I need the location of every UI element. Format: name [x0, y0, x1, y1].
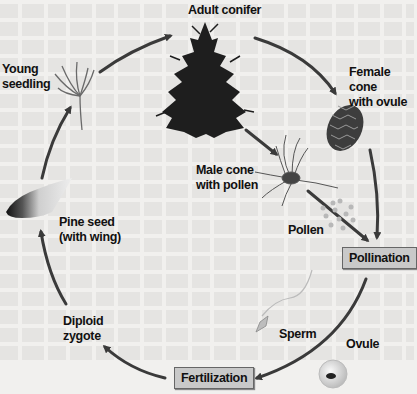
label-male-cone: Male cone with pollen: [196, 163, 258, 193]
arrow-fertilization-to-zygote: [105, 347, 165, 378]
label-diploid-zygote: Diploid zygote: [63, 314, 103, 344]
label-ovule: Ovule: [346, 337, 379, 352]
pollination-box: Pollination: [342, 247, 417, 269]
ovule-icon: [319, 360, 347, 388]
arrow-female-to-pollination: [370, 150, 378, 237]
fertilization-box: Fertilization: [174, 367, 254, 389]
young-seedling-icon: [55, 62, 94, 130]
arrow-adult-to-female: [255, 38, 335, 93]
label-young-seedling: Young seedling: [2, 62, 50, 92]
label-adult-conifer: Adult conifer: [188, 3, 261, 18]
arrow-seedling-to-adult: [100, 36, 170, 72]
adult-conifer-icon: [156, 22, 254, 138]
label-pollen: Pollen: [288, 223, 324, 238]
arrow-seed-to-seedling: [42, 108, 70, 178]
sperm-icon: [256, 270, 312, 332]
label-pine-seed: Pine seed (with wing): [59, 215, 121, 245]
label-female-cone: Female cone with ovule: [349, 65, 414, 110]
arrow-adult-to-male: [246, 130, 276, 154]
label-sperm: Sperm: [279, 327, 316, 342]
pine-seed-icon: [6, 178, 72, 218]
